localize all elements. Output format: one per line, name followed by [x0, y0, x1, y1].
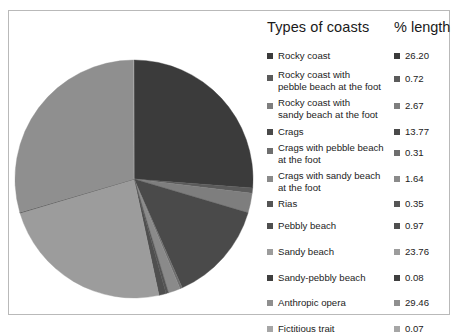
legend-item-category: Crags with sandy beach at the foot: [257, 170, 394, 193]
legend-value-swatch-icon: [394, 223, 400, 229]
legend-swatch-icon: [267, 300, 273, 306]
legend-item-value: 1.64: [405, 173, 424, 185]
legend-item-value: 0.31: [405, 147, 424, 159]
legend-item-category: Crags: [257, 126, 394, 138]
legend-item-value: 29.46: [405, 297, 429, 309]
legend-item-label: Crags with pebble beach at the foot: [278, 142, 384, 165]
chart-figure: Types of coasts % length Rocky coast26.2…: [8, 10, 450, 315]
legend-swatch-icon: [267, 129, 273, 135]
legend-item-value: 13.77: [405, 126, 429, 138]
legend-item-value-row: 0.35: [394, 198, 424, 210]
legend-item-label: Crags: [278, 126, 304, 138]
legend-value-swatch-icon: [394, 275, 400, 281]
legend-item-value-row: 0.08: [394, 272, 424, 284]
legend-item-value-row: 0.97: [394, 220, 424, 232]
legend-value-swatch-icon: [394, 201, 400, 207]
legend-item-value-row: 0.72: [394, 73, 424, 85]
legend-item-value-row: 0.07: [394, 323, 424, 335]
legend-item-label: Anthropic opera: [278, 297, 346, 309]
legend-value-swatch-icon: [394, 326, 400, 332]
legend-swatch-icon: [267, 75, 273, 81]
legend-header: Types of coasts % length: [257, 19, 449, 43]
legend-item-value-row: 0.31: [394, 147, 424, 159]
pie-chart-area: [9, 11, 259, 314]
legend-item-value: 0.97: [405, 220, 424, 232]
legend-swatch-icon: [267, 148, 273, 154]
legend-item-value: 0.35: [405, 198, 424, 210]
legend-item-label: Rocky coast with pebble beach at the foo…: [278, 69, 381, 92]
legend-item-value-row: 2.67: [394, 100, 424, 112]
legend-item-label: Rocky coast with sandy beach at the foot: [278, 97, 378, 120]
legend-item-label: Fictitious trait: [278, 323, 335, 335]
legend-item-category: Pebbly beach: [257, 220, 394, 232]
legend-item-value-row: 29.46: [394, 297, 429, 309]
legend-value-swatch-icon: [394, 53, 400, 59]
legend-value-swatch-icon: [394, 150, 400, 156]
legend-item-category: Anthropic opera: [257, 297, 394, 309]
legend-item-category: Rocky coast with sandy beach at the foot: [257, 97, 394, 120]
legend-item-value-row: 13.77: [394, 126, 429, 138]
legend-item-label: Sandy-pebbly beach: [278, 272, 365, 284]
legend-item-label: Pebbly beach: [278, 220, 336, 232]
legend-item-category: Crags with pebble beach at the foot: [257, 142, 394, 165]
legend-value-swatch-icon: [394, 300, 400, 306]
legend-item-value: 23.76: [405, 246, 429, 258]
legend-item-category: Rias: [257, 198, 394, 210]
legend-swatch-icon: [267, 53, 273, 59]
legend-item-label: Sandy beach: [278, 246, 334, 258]
pie-chart: [13, 58, 255, 300]
legend-item-label: Crags with sandy beach at the foot: [278, 170, 380, 193]
legend-item-category: Sandy beach: [257, 246, 394, 258]
legend-item-label: Rocky coast: [278, 50, 330, 62]
legend-item-label: Rias: [278, 198, 297, 210]
legend-value-swatch-icon: [394, 129, 400, 135]
legend-value-swatch-icon: [394, 176, 400, 182]
legend-value-swatch-icon: [394, 249, 400, 255]
chart-legend: Types of coasts % length Rocky coast26.2…: [257, 11, 449, 314]
legend-swatch-icon: [267, 326, 273, 332]
legend-header-category: Types of coasts: [267, 19, 369, 35]
legend-value-swatch-icon: [394, 76, 400, 82]
legend-item-value: 0.08: [405, 272, 424, 284]
legend-item-category: Rocky coast with pebble beach at the foo…: [257, 69, 394, 92]
pie-slice: [134, 60, 253, 188]
legend-item-value-row: 1.64: [394, 173, 424, 185]
legend-swatch-icon: [267, 176, 273, 182]
legend-swatch-icon: [267, 223, 273, 229]
legend-item-value: 26.20: [405, 50, 429, 62]
legend-item-value: 0.72: [405, 73, 424, 85]
legend-swatch-icon: [267, 103, 273, 109]
legend-item-value-row: 26.20: [394, 50, 429, 62]
legend-swatch-icon: [267, 249, 273, 255]
legend-item-value: 2.67: [405, 100, 424, 112]
legend-swatch-icon: [267, 275, 273, 281]
legend-item-category: Fictitious trait: [257, 323, 394, 335]
legend-header-value: % length: [394, 19, 450, 35]
legend-value-swatch-icon: [394, 103, 400, 109]
legend-swatch-icon: [267, 201, 273, 207]
legend-item-category: Rocky coast: [257, 50, 394, 62]
legend-item-value-row: 23.76: [394, 246, 429, 258]
legend-item-value: 0.07: [405, 323, 424, 335]
legend-item-category: Sandy-pebbly beach: [257, 272, 394, 284]
